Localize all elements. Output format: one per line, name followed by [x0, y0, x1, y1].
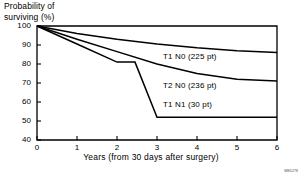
- y-axis-tick-label: 90: [7, 40, 31, 49]
- x-axis-tick-label: 1: [70, 143, 84, 152]
- y-axis-tick-label: 100: [7, 21, 31, 30]
- survival-curve-t2-n0: [37, 26, 277, 81]
- y-axis-tick-label: 80: [7, 59, 31, 68]
- x-axis-tick-label: 5: [230, 143, 244, 152]
- x-axis-tick-label: 4: [190, 143, 204, 152]
- figure-id-text: MED278: [284, 168, 298, 173]
- x-axis-tick-label: 3: [150, 143, 164, 152]
- series-label-t2-n0: T2 N0 (236 pt): [163, 81, 217, 90]
- series-label-t1-n0: T1 N0 (225 pt): [163, 52, 217, 61]
- axis-frame: [37, 26, 277, 140]
- series-label-t1-n1: T1 N1 (30 pt): [163, 100, 212, 109]
- y-axis-title: Probability of surviving (%): [4, 1, 55, 22]
- survival-curve-t1-n1: [37, 26, 277, 117]
- y-axis-tick-label: 50: [7, 116, 31, 125]
- y-axis-tick-label: 40: [7, 135, 31, 144]
- y-axis-tick-label: 60: [7, 97, 31, 106]
- survival-curve-t1-n0: [37, 26, 277, 53]
- survival-curve-figure: Probability of surviving (%) Years (from…: [0, 0, 302, 176]
- y-axis-tick-label: 70: [7, 78, 31, 87]
- x-axis-tick-label: 6: [270, 143, 284, 152]
- x-axis-tick-label: 2: [110, 143, 124, 152]
- x-axis-tick-label: 0: [30, 143, 44, 152]
- x-axis-title: Years (from 30 days after surgery): [0, 152, 302, 162]
